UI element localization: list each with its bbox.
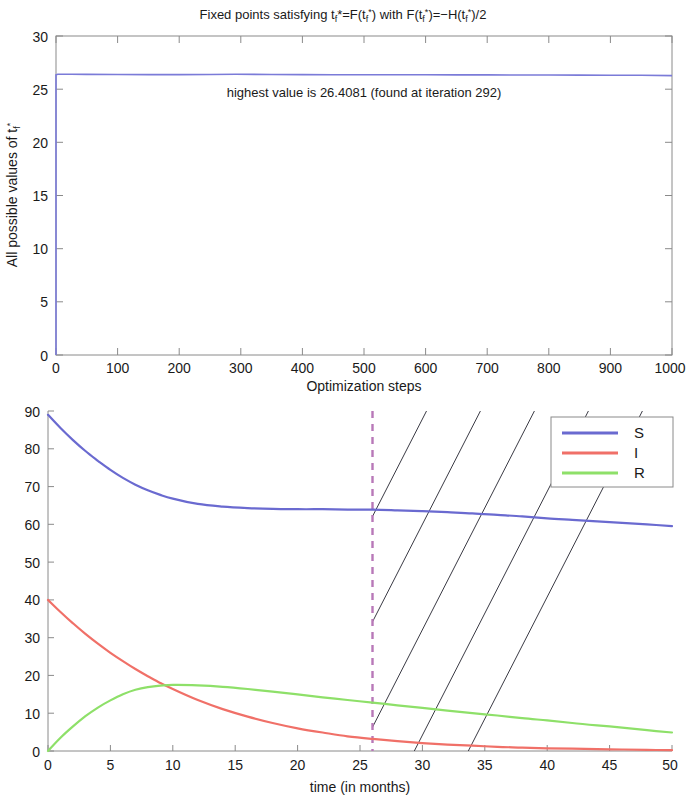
x-tick-label: 45 xyxy=(602,757,618,773)
x-tick-label: 0 xyxy=(52,360,60,376)
fixed-point-series-line xyxy=(56,74,672,355)
x-tick-label: 0 xyxy=(44,757,52,773)
sir-curves-chart: 0 10 20 30 40 50 60 70 80 90 0 5 10 15 2… xyxy=(0,395,687,801)
hatch-line xyxy=(373,411,427,516)
x-tick-labels-bottom: 0 5 10 15 20 25 30 35 40 45 50 xyxy=(44,757,678,773)
y-tick-label: 30 xyxy=(24,630,40,646)
x-tick-label: 50 xyxy=(662,757,678,773)
y-tick-label: 15 xyxy=(32,188,48,204)
legend-label-S: S xyxy=(634,424,644,441)
y-axis-title: All possible values of tf* xyxy=(4,122,22,267)
x-tick-label: 5 xyxy=(107,757,115,773)
y-tick-label: 0 xyxy=(32,744,40,760)
x-tick-labels: 0 100 200 300 400 500 600 700 800 900 10… xyxy=(52,360,686,376)
x-tick-label: 15 xyxy=(227,757,243,773)
legend-label-R: R xyxy=(634,464,645,481)
x-tick-label: 100 xyxy=(106,360,130,376)
chart-title: Fixed points satisfying tf*=F(tf*) with … xyxy=(200,7,487,24)
x-tick-label: 35 xyxy=(477,757,493,773)
x-tick-label: 20 xyxy=(290,757,306,773)
x-tick-label: 10 xyxy=(165,757,181,773)
y-tick-label: 40 xyxy=(24,592,40,608)
y-tick-label: 10 xyxy=(24,706,40,722)
x-tick-label: 40 xyxy=(539,757,555,773)
y-tick-label: 60 xyxy=(24,517,40,533)
x-tick-label: 25 xyxy=(352,757,368,773)
x-tick-label: 400 xyxy=(291,360,315,376)
x-tick-label: 30 xyxy=(415,757,431,773)
y-tick-labels-bottom: 0 10 20 30 40 50 60 70 80 90 xyxy=(24,404,40,760)
y-tick-label: 20 xyxy=(32,135,48,151)
legend-label-I: I xyxy=(634,444,638,461)
y-tick-label: 90 xyxy=(24,404,40,420)
x-tick-label: 900 xyxy=(599,360,623,376)
y-tick-label: 50 xyxy=(24,555,40,571)
x-tick-label: 200 xyxy=(168,360,192,376)
sir-curves-svg: 0 10 20 30 40 50 60 70 80 90 0 5 10 15 2… xyxy=(0,395,687,801)
x-axis-title-bottom: time (in months) xyxy=(310,779,410,795)
x-tick-label: 1000 xyxy=(654,360,685,376)
x-tick-label: 500 xyxy=(352,360,376,376)
fixed-points-svg: Fixed points satisfying tf*=F(tf*) with … xyxy=(0,0,687,395)
legend: S I R xyxy=(551,417,673,487)
highest-value-annotation: highest value is 26.4081 (found at itera… xyxy=(227,85,502,100)
y-tick-label: 0 xyxy=(40,348,48,364)
y-tick-label: 5 xyxy=(40,294,48,310)
fixed-points-chart: Fixed points satisfying tf*=F(tf*) with … xyxy=(0,0,687,395)
series-line-I xyxy=(48,600,672,750)
hatch-line xyxy=(373,411,481,622)
y-tick-label: 80 xyxy=(24,441,40,457)
y-tick-label: 70 xyxy=(24,479,40,495)
figure-page: Fixed points satisfying tf*=F(tf*) with … xyxy=(0,0,687,801)
y-tick-label: 30 xyxy=(32,29,48,45)
x-tick-label: 800 xyxy=(537,360,561,376)
y-tick-label: 25 xyxy=(32,82,48,98)
series-line-R xyxy=(48,685,672,751)
y-tick-label: 10 xyxy=(32,241,48,257)
y-tick-marks-bottom xyxy=(48,411,54,751)
hatch-line xyxy=(373,411,535,727)
y-tick-label: 20 xyxy=(24,668,40,684)
x-axis-title: Optimization steps xyxy=(306,378,421,394)
x-tick-label: 300 xyxy=(229,360,253,376)
y-tick-labels: 0 5 10 15 20 25 30 xyxy=(32,29,48,364)
x-tick-label: 600 xyxy=(414,360,438,376)
x-tick-label: 700 xyxy=(476,360,500,376)
